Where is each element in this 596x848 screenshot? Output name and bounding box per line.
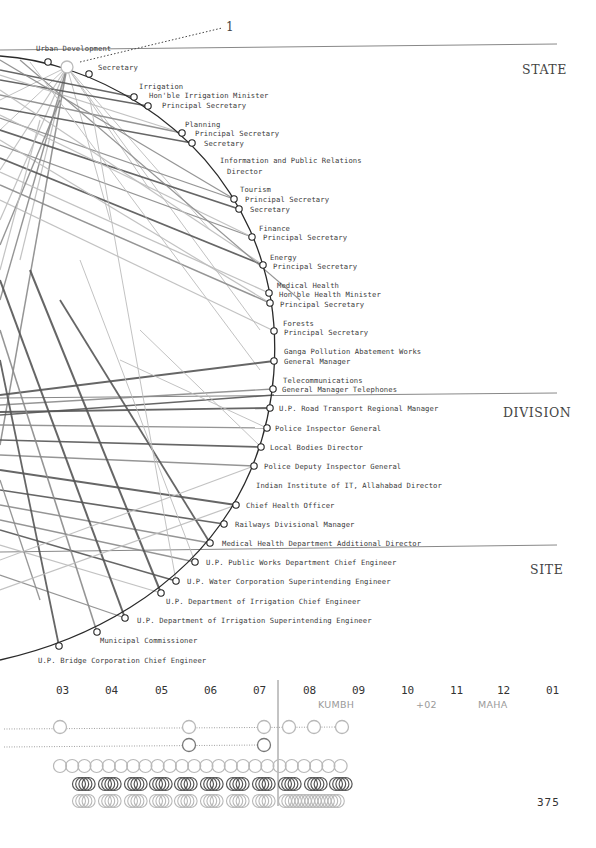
year-label: 05 (155, 684, 168, 697)
timeline-graphic (4, 680, 352, 808)
node-label: Police Inspector General (275, 424, 381, 433)
timeline-row-2-dotted (4, 745, 264, 747)
timeline-circle (90, 760, 103, 773)
year-label: 10 (401, 684, 414, 697)
connection-line (0, 455, 254, 466)
connection-line (0, 80, 148, 106)
connection-line (0, 425, 267, 428)
node-marker (122, 615, 128, 621)
node-label: Principal Secretary (273, 262, 357, 271)
year-label: 01 (546, 684, 559, 697)
year-label: 08 (303, 684, 316, 697)
node-marker (56, 643, 62, 649)
node-marker (94, 629, 100, 635)
timeline-event-circle (183, 721, 196, 734)
node-marker (173, 578, 179, 584)
node-label: Director (227, 167, 262, 176)
node-label: Tourism (240, 185, 271, 194)
node-label: U.P. Public Works Department Chief Engin… (206, 558, 396, 567)
timeline-circle (200, 760, 213, 773)
node-label: Principal Secretary (280, 300, 364, 309)
node-label: Local Bodies Director (270, 443, 363, 452)
connection-line (60, 300, 210, 543)
connection-line (0, 466, 254, 560)
timeline-circle (102, 760, 115, 773)
focus-node-marker (61, 61, 73, 73)
node-marker (249, 234, 255, 240)
node-label: Railways Divisional Manager (235, 520, 355, 529)
node-marker (131, 94, 137, 100)
year-label: 06 (204, 684, 217, 697)
timeline-circle (224, 760, 237, 773)
node-label: Energy (270, 253, 297, 262)
timeline-circle (273, 760, 286, 773)
connection-line (0, 575, 125, 618)
timeline-circle (212, 760, 225, 773)
node-label: Ganga Pollution Abatement Works (284, 347, 421, 356)
node-label: Medical Health (277, 281, 339, 290)
event-label: KUMBH (318, 699, 354, 710)
node-marker (179, 130, 185, 136)
connection-line (0, 200, 274, 331)
timeline-event-circle (183, 739, 196, 752)
node-marker (221, 521, 227, 527)
timeline-circle (78, 760, 91, 773)
node-marker (264, 425, 270, 431)
node-label: Hon'ble Irrigation Minister (149, 91, 269, 100)
year-label: 03 (56, 684, 69, 697)
tier-label-state: STATE (522, 62, 567, 77)
timeline-circle (249, 760, 262, 773)
tier-label-site: SITE (530, 562, 563, 577)
timeline-event-circle (258, 739, 271, 752)
node-marker (192, 559, 198, 565)
node-marker (231, 196, 237, 202)
node-label: U.P. Department of Irrigation Chief Engi… (166, 597, 361, 606)
page-number: 375 (537, 796, 560, 809)
node-label: Secretary (250, 205, 290, 214)
node-marker (233, 502, 239, 508)
node-label: Finance (259, 224, 290, 233)
node-marker (271, 328, 277, 334)
node-marker (271, 358, 277, 364)
timeline-circle (66, 760, 79, 773)
year-label: 09 (352, 684, 365, 697)
timeline-circle (310, 760, 323, 773)
node-label: Urban Development (36, 44, 111, 53)
timeline-circle (54, 760, 67, 773)
year-label: 04 (105, 684, 118, 697)
node-label: Hon'ble Health Minister (279, 290, 381, 299)
timeline-event-circle (283, 721, 296, 734)
timeline-circle (176, 760, 189, 773)
node-marker (207, 540, 213, 546)
timeline-circle (188, 760, 201, 773)
node-label: Information and Public Relations (220, 156, 362, 165)
node-label: Secretary (204, 139, 244, 148)
node-marker (86, 71, 92, 77)
timeline-circle (115, 760, 128, 773)
node-label: Principal Secretary (263, 233, 347, 242)
node-marker (236, 206, 242, 212)
year-label: 11 (450, 684, 463, 697)
node-label: General Manager (284, 357, 350, 366)
node-marker (145, 103, 151, 109)
node-marker (45, 59, 51, 65)
tier-divider-line (0, 393, 557, 398)
node-label: Secretary (98, 63, 138, 72)
node-marker (270, 386, 276, 392)
timeline-circle (298, 760, 311, 773)
node-label: Irrigation (139, 82, 183, 91)
connection-line (0, 330, 97, 632)
node-label: U.P. Department of Irrigation Superinten… (137, 616, 372, 625)
timeline-circle (139, 760, 152, 773)
node-label: Principal Secretary (284, 328, 368, 337)
timeline-circle (261, 760, 274, 773)
tier-label-division: DIVISION (503, 405, 571, 420)
connection-line (90, 100, 176, 581)
node-label: U.P. Road Transport Regional Manager (279, 404, 438, 413)
event-label: +02 (416, 699, 437, 710)
node-label: U.P. Bridge Corporation Chief Engineer (38, 656, 206, 665)
node-marker (251, 463, 257, 469)
timeline-circle (334, 760, 347, 773)
timeline-circle (163, 760, 176, 773)
timeline-circle (127, 760, 140, 773)
